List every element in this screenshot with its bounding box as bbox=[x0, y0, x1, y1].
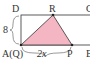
label-d: D bbox=[12, 3, 19, 14]
point-q bbox=[20, 44, 23, 47]
label-p: P bbox=[67, 48, 73, 59]
height-brace bbox=[10, 16, 19, 44]
label-base: 2x bbox=[37, 48, 47, 59]
triangle-qrp bbox=[21, 15, 72, 45]
label-a-q: A(Q) bbox=[2, 48, 23, 59]
point-r bbox=[52, 14, 55, 17]
point-p bbox=[71, 44, 74, 47]
label-c: C bbox=[86, 3, 90, 14]
label-height: 8 bbox=[3, 24, 8, 35]
label-b: B bbox=[86, 48, 90, 59]
geometry-diagram: D R C 8 A(Q) 2x P B bbox=[0, 0, 90, 59]
label-r: R bbox=[49, 3, 56, 14]
base-brace bbox=[22, 47, 71, 56]
